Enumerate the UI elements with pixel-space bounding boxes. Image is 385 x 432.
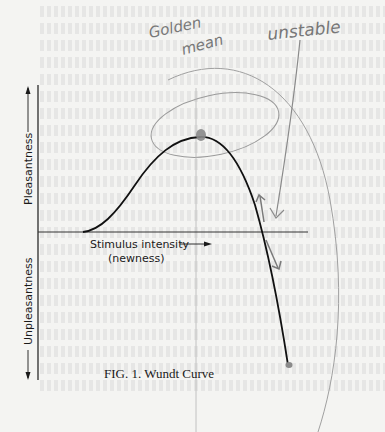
y-axis-positive-label-group: Pleasantness <box>22 86 35 205</box>
arrow-down-icon <box>26 372 31 380</box>
y-axis-positive-label: Pleasantness <box>22 133 35 205</box>
end-dot <box>286 362 293 368</box>
golden-mean-label-line2: mean <box>179 30 225 58</box>
y-axis-negative-label-group: Unpleasantness <box>22 257 35 380</box>
up-arrow-icon <box>256 195 265 222</box>
x-axis-label-line1: Stimulus intensity <box>90 238 189 251</box>
figure-page: Pleasantness Unpleasantness Stimulus int… <box>0 0 385 432</box>
x-axis-label-line2: (newness) <box>108 252 165 265</box>
golden-mean-ellipse <box>145 82 285 168</box>
unstable-pointer-arrow <box>270 40 300 218</box>
y-axis-negative-label: Unpleasantness <box>22 257 35 345</box>
figure-caption: FIG. 1. Wundt Curve <box>104 366 214 381</box>
peak-dot <box>196 129 206 141</box>
unstable-label: unstable <box>266 16 341 44</box>
arrow-up-icon <box>26 86 31 94</box>
wundt-curve-diagram: Pleasantness Unpleasantness Stimulus int… <box>0 0 385 432</box>
